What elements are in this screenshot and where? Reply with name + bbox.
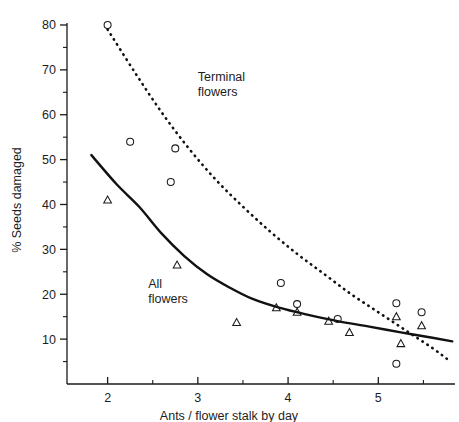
series-annotation-line1: All <box>148 277 162 291</box>
y-tick-label: 70 <box>42 63 56 77</box>
x-tick-label: 4 <box>285 391 292 405</box>
x-axis-title: Ants / flower stalk by day <box>160 409 299 422</box>
scatter-plot-canvas: 10203040506070802345Ants / flower stalk … <box>0 0 459 422</box>
y-tick-label: 30 <box>42 243 56 257</box>
data-point-triangle <box>346 328 354 335</box>
data-point-triangle <box>173 261 181 268</box>
data-point-triangle <box>397 340 405 347</box>
data-point-circle <box>294 301 301 308</box>
y-tick-label: 20 <box>42 288 56 302</box>
data-point-triangle <box>418 322 426 329</box>
data-point-triangle <box>104 196 112 203</box>
data-point-triangle <box>233 319 241 326</box>
y-tick-label: 40 <box>42 198 56 212</box>
data-point-circle <box>127 138 134 145</box>
data-point-circle <box>393 360 400 367</box>
x-tick-label: 2 <box>104 391 111 405</box>
x-tick-label: 5 <box>375 391 382 405</box>
y-tick-label: 60 <box>42 108 56 122</box>
data-point-circle <box>277 280 284 287</box>
series-annotation-line2: flowers <box>198 85 238 99</box>
data-point-triangle <box>392 313 400 320</box>
y-tick-label: 50 <box>42 153 56 167</box>
y-tick-label: 10 <box>42 333 56 347</box>
data-point-circle <box>393 300 400 307</box>
data-point-circle <box>172 145 179 152</box>
x-tick-label: 3 <box>194 391 201 405</box>
chart-figure: 10203040506070802345Ants / flower stalk … <box>0 0 459 422</box>
y-axis-title: % Seeds damaged <box>10 147 24 253</box>
series-annotation-line2: flowers <box>148 292 188 306</box>
series-annotation-line1: Terminal <box>198 70 245 84</box>
data-point-circle <box>104 21 111 28</box>
fit-curve-solid <box>91 155 452 341</box>
y-tick-label: 80 <box>42 18 56 32</box>
fit-curve-dotted <box>108 29 451 361</box>
data-point-circle <box>167 179 174 186</box>
data-point-circle <box>418 309 425 316</box>
